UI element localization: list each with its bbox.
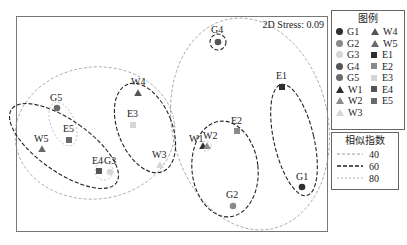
label-G5: G5 bbox=[50, 92, 62, 103]
circle-marker-icon bbox=[336, 63, 343, 70]
legend-item-G5: G5 bbox=[336, 72, 371, 84]
square-marker-icon bbox=[371, 86, 377, 92]
triangle-marker-icon bbox=[336, 86, 344, 93]
legend-item-E2: E2 bbox=[371, 61, 406, 73]
similarity-item-label: 40 bbox=[369, 149, 379, 160]
label-E3: E3 bbox=[127, 108, 138, 119]
legend-item-E1: E1 bbox=[371, 49, 406, 61]
legend-item-label: W5 bbox=[383, 38, 397, 49]
legend-item-W5: W5 bbox=[371, 38, 406, 50]
point-G2 bbox=[230, 203, 237, 210]
dashed-line-icon bbox=[337, 175, 363, 181]
point-E3 bbox=[130, 122, 136, 128]
point-G3 bbox=[107, 169, 114, 176]
square-marker-icon bbox=[371, 52, 377, 58]
group-legend-title: 图例 bbox=[332, 13, 404, 25]
point-E2 bbox=[234, 128, 240, 134]
legend-item-W1: W1 bbox=[336, 84, 371, 96]
point-G1 bbox=[299, 184, 306, 191]
legend-item-label: W4 bbox=[383, 26, 397, 37]
legend-item-label: E2 bbox=[382, 61, 393, 72]
label-W2: W2 bbox=[203, 130, 217, 141]
label-G4: G4 bbox=[211, 24, 223, 35]
legend-item-G1: G1 bbox=[336, 26, 371, 38]
label-E1: E1 bbox=[276, 70, 287, 81]
label-E2: E2 bbox=[231, 115, 242, 126]
legend-item-G3: G3 bbox=[336, 49, 371, 61]
legend-item-label: W3 bbox=[348, 107, 362, 118]
group-legend: 图例 G1G2G3G4G5W1W2W3 W4W5E1E2E3E4E5 bbox=[331, 10, 405, 130]
similarity-legend-title: 相似指数 bbox=[332, 135, 398, 147]
circle-marker-icon bbox=[336, 40, 343, 47]
legend-item-E5: E5 bbox=[371, 95, 406, 107]
similarity-legend-list: 406080 bbox=[332, 148, 398, 184]
point-G4 bbox=[215, 39, 222, 46]
legend-item-label: W2 bbox=[348, 95, 362, 106]
legend-item-label: G3 bbox=[347, 49, 359, 60]
legend-item-label: G2 bbox=[347, 38, 359, 49]
square-marker-icon bbox=[371, 75, 377, 81]
group-legend-grid: G1G2G3G4G5W1W2W3 W4W5E1E2E3E4E5 bbox=[332, 25, 404, 118]
triangle-marker-icon bbox=[371, 40, 379, 47]
label-W5: W5 bbox=[34, 133, 48, 144]
legend-item-E3: E3 bbox=[371, 72, 406, 84]
legend-item-label: G5 bbox=[347, 72, 359, 83]
legend-column-1: G1G2G3G4G5W1W2W3 bbox=[336, 26, 371, 118]
label-W3: W3 bbox=[152, 149, 166, 160]
point-E1 bbox=[279, 84, 285, 90]
legend-item-W4: W4 bbox=[371, 26, 406, 38]
label-G3: G3 bbox=[104, 155, 116, 166]
legend-item-W3: W3 bbox=[336, 107, 371, 119]
circle-marker-icon bbox=[336, 74, 343, 81]
triangle-marker-icon bbox=[336, 97, 344, 104]
similarity-legend: 相似指数 406080 bbox=[331, 132, 399, 190]
label-W1: W1 bbox=[189, 133, 203, 144]
similarity-item-80: 80 bbox=[332, 172, 398, 184]
label-W4: W4 bbox=[131, 76, 145, 87]
similarity-item-60: 60 bbox=[332, 160, 398, 172]
label-G1: G1 bbox=[296, 171, 308, 182]
label-G2: G2 bbox=[226, 189, 238, 200]
point-E5 bbox=[66, 137, 72, 143]
triangle-marker-icon bbox=[336, 109, 344, 116]
legend-item-G2: G2 bbox=[336, 38, 371, 50]
point-G5 bbox=[54, 105, 61, 112]
similarity-item-label: 60 bbox=[369, 161, 379, 172]
label-E4: E4 bbox=[92, 155, 103, 166]
legend-column-2: W4W5E1E2E3E4E5 bbox=[371, 26, 406, 118]
legend-item-label: G1 bbox=[347, 26, 359, 37]
legend-item-label: E1 bbox=[382, 49, 393, 60]
dashed-line-icon bbox=[337, 151, 363, 157]
circle-marker-icon bbox=[336, 28, 343, 35]
point-E4 bbox=[96, 168, 102, 174]
circle-marker-icon bbox=[336, 51, 343, 58]
square-marker-icon bbox=[371, 98, 377, 104]
stress-annotation: 2D Stress: 0.09 bbox=[263, 19, 324, 30]
dashed-line-icon bbox=[337, 163, 363, 169]
legend-item-G4: G4 bbox=[336, 61, 371, 73]
legend-item-W2: W2 bbox=[336, 95, 371, 107]
label-E5: E5 bbox=[63, 123, 74, 134]
legend-item-label: E3 bbox=[382, 72, 393, 83]
legend-item-label: W1 bbox=[348, 84, 362, 95]
similarity-item-label: 80 bbox=[369, 173, 379, 184]
triangle-marker-icon bbox=[371, 28, 379, 35]
square-marker-icon bbox=[371, 63, 377, 69]
legend-item-E4: E4 bbox=[371, 84, 406, 96]
legend-item-label: E5 bbox=[382, 95, 393, 106]
legend-item-label: G4 bbox=[347, 61, 359, 72]
legend-item-label: E4 bbox=[382, 84, 393, 95]
similarity-item-40: 40 bbox=[332, 148, 398, 160]
